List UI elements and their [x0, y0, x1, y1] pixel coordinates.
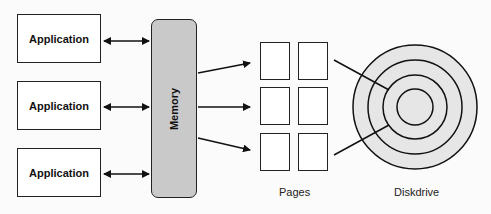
application-label: Application — [29, 167, 89, 179]
memory-label: Memory — [168, 87, 180, 129]
pages-label: Pages — [279, 186, 310, 198]
application-box-1: Application — [17, 14, 101, 63]
application-label: Application — [29, 33, 89, 45]
application-box-3: Application — [17, 148, 101, 197]
page-box — [260, 133, 290, 171]
page-box — [260, 42, 290, 80]
page-box — [298, 133, 328, 171]
application-box-2: Application — [17, 81, 101, 130]
diskdrive-icon — [353, 45, 477, 169]
diagram: Application Application Application Memo… — [0, 0, 491, 214]
application-label: Application — [29, 100, 89, 112]
page-box — [260, 87, 290, 125]
page-box — [298, 87, 328, 125]
memory-box: Memory — [151, 19, 197, 198]
page-box — [298, 42, 328, 80]
diskdrive-label: Diskdrive — [394, 186, 439, 198]
